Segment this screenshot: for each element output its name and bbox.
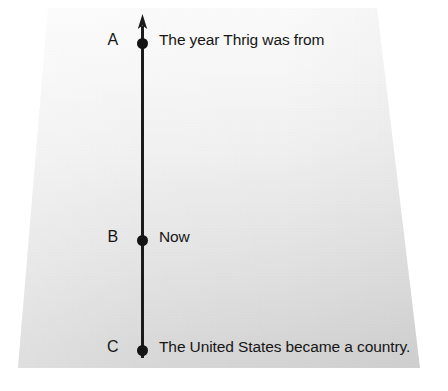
timeline-axis-line — [141, 26, 144, 358]
timeline-point-letter-c: C — [100, 338, 126, 356]
timeline-point-letter-b: B — [100, 228, 126, 246]
timeline-point-marker-a — [137, 38, 148, 49]
worksheet-page: A The year Thrig was from B Now C The Un… — [0, 0, 448, 391]
timeline-point-label-a: The year Thrig was from — [159, 31, 324, 49]
timeline-point-marker-b — [137, 235, 148, 246]
timeline-point-label-b: Now — [159, 228, 190, 246]
timeline-point-letter-a: A — [100, 31, 126, 49]
arrow-up-icon — [135, 14, 150, 30]
timeline-point-marker-c — [137, 345, 148, 356]
timeline-point-label-c: The United States became a country. — [159, 338, 410, 356]
paper-sheet — [0, 0, 448, 391]
